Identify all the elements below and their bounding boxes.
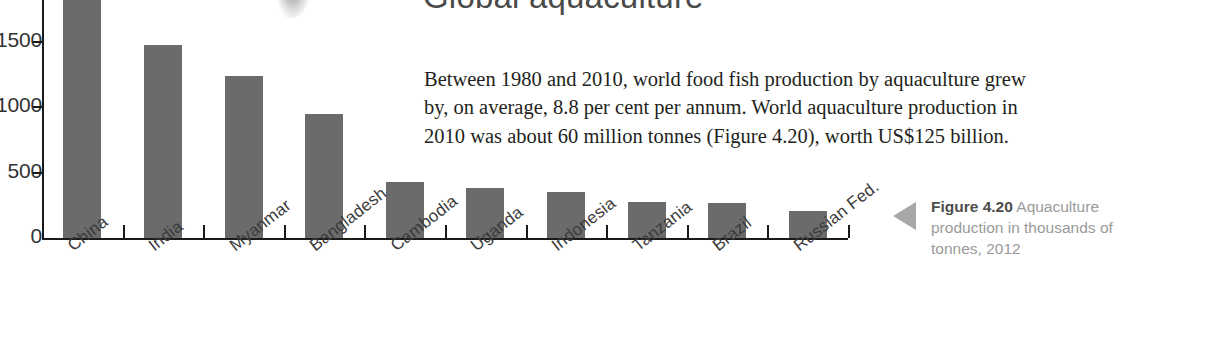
y-axis-tick-mark (33, 172, 44, 174)
x-axis-tick-mark (123, 225, 125, 238)
x-axis-tick-mark (687, 225, 689, 238)
y-axis-tick-labels: 050010001500 (0, 0, 42, 341)
y-axis-tick-mark (33, 41, 44, 43)
y-axis-tick-label: 1500 (0, 28, 42, 52)
bar (144, 45, 182, 238)
aquaculture-bar-chart: 050010001500 ChinaIndiaMyanmarBangladesh… (0, 0, 880, 341)
figure-caption-text: Figure 4.20 Aquaculture production in th… (931, 196, 1161, 259)
x-axis-tick-mark (203, 225, 205, 238)
x-axis-tick-mark (445, 225, 447, 238)
x-axis-category-labels: ChinaIndiaMyanmarBangladeshCambodiaUgand… (42, 240, 882, 341)
x-axis-tick-mark (767, 225, 769, 238)
y-axis-tick-label: 0 (0, 224, 42, 248)
textbook-page-excerpt: 050010001500 ChinaIndiaMyanmarBangladesh… (0, 0, 1227, 341)
x-axis-tick-mark (284, 225, 286, 238)
body-paragraph: Between 1980 and 2010, world food fish p… (424, 65, 1044, 151)
x-axis-tick-mark (364, 225, 366, 238)
figure-caption-label: Figure 4.20 (931, 198, 1013, 215)
y-axis-tick-label: 500 (0, 159, 42, 183)
x-axis-tick-mark (606, 225, 608, 238)
triangle-left-icon (893, 202, 916, 230)
x-axis-tick-mark (526, 225, 528, 238)
y-axis-tick-mark (33, 106, 44, 108)
x-axis-tick-mark (848, 225, 850, 238)
section-heading: Global aquaculture (423, 0, 704, 16)
y-axis-tick-label: 1000 (0, 93, 42, 117)
bar (225, 76, 263, 238)
bar (63, 0, 101, 238)
